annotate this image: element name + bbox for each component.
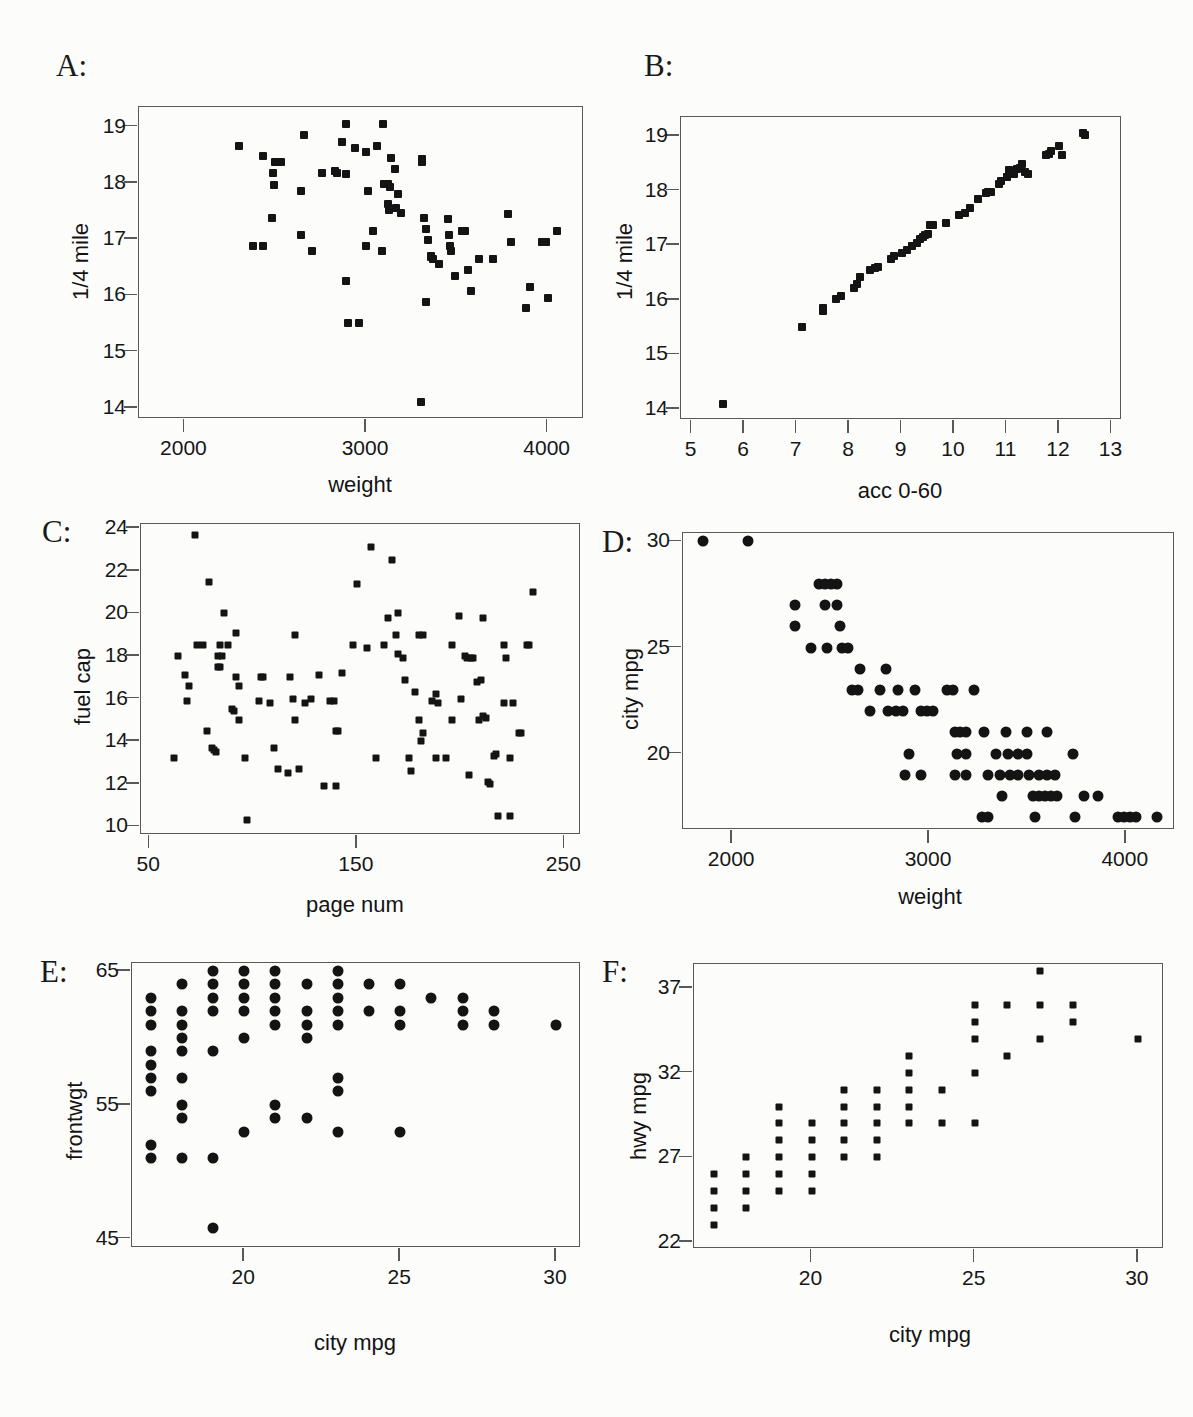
y-axis-tick-label: 15 — [66, 339, 126, 363]
data-point — [145, 1006, 156, 1017]
data-point — [1134, 1035, 1141, 1042]
data-point — [900, 769, 911, 780]
data-point — [461, 653, 468, 660]
data-point — [855, 663, 866, 674]
y-axis-tick-label: 14 — [66, 395, 126, 419]
data-point — [301, 1006, 312, 1017]
data-point — [494, 812, 501, 819]
x-axis-tick-label: 20 — [799, 1266, 822, 1290]
data-point — [239, 1006, 250, 1017]
data-point — [395, 1006, 406, 1017]
data-point — [1051, 791, 1062, 802]
data-point — [443, 755, 450, 762]
data-point — [451, 272, 459, 280]
data-point — [447, 247, 455, 255]
data-point — [509, 699, 516, 706]
data-point — [961, 748, 972, 759]
data-point — [270, 1006, 281, 1017]
data-point — [971, 1018, 978, 1025]
data-point — [363, 1006, 374, 1017]
data-point — [873, 1137, 880, 1144]
data-point — [530, 589, 537, 596]
x-axis-tick — [183, 419, 185, 432]
data-point — [1049, 769, 1060, 780]
data-point — [821, 642, 832, 653]
data-point — [873, 1154, 880, 1161]
data-point — [507, 755, 514, 762]
data-point — [318, 169, 326, 177]
data-point — [710, 1205, 717, 1212]
data-point — [208, 1006, 219, 1017]
data-point — [270, 744, 277, 751]
data-point — [364, 644, 371, 651]
data-point — [204, 727, 211, 734]
data-point — [351, 144, 359, 152]
data-point — [927, 706, 938, 717]
data-point — [457, 1019, 468, 1030]
data-point — [457, 992, 468, 1003]
data-point — [553, 227, 561, 235]
data-point — [455, 612, 462, 619]
panel-c-xlabel: page num — [306, 892, 404, 918]
data-point — [175, 653, 182, 660]
data-point — [270, 1099, 281, 1110]
data-point — [1036, 967, 1043, 974]
y-axis-tick-label: 65 — [59, 958, 119, 982]
data-point — [432, 691, 439, 698]
data-point — [208, 1046, 219, 1057]
data-point — [364, 187, 372, 195]
data-point — [906, 1103, 913, 1110]
data-point — [961, 727, 972, 738]
data-point — [526, 642, 533, 649]
y-axis-tick-label: 18 — [608, 178, 668, 202]
data-point — [260, 674, 267, 681]
data-point — [1067, 748, 1078, 759]
data-point — [551, 1019, 562, 1030]
x-axis-tick-label: 8 — [842, 437, 854, 461]
y-axis-tick-label: 10 — [68, 813, 128, 837]
data-point — [239, 979, 250, 990]
x-axis-tick — [742, 420, 744, 433]
data-point — [239, 1032, 250, 1043]
data-point — [316, 672, 323, 679]
data-point — [399, 655, 406, 662]
data-point — [422, 225, 430, 233]
data-point — [841, 1154, 848, 1161]
data-point — [372, 755, 379, 762]
data-point — [808, 1188, 815, 1195]
panel-a-points — [139, 107, 582, 417]
data-point — [411, 689, 418, 696]
data-point — [270, 1019, 281, 1030]
data-point — [504, 210, 512, 218]
data-point — [482, 714, 489, 721]
panel-b-plot-area — [680, 116, 1121, 419]
data-point — [287, 674, 294, 681]
data-point — [790, 621, 801, 632]
data-point — [507, 812, 514, 819]
y-axis-tick-label: 19 — [608, 123, 668, 147]
data-point — [916, 769, 927, 780]
data-point — [355, 319, 363, 327]
data-point — [874, 263, 882, 271]
y-axis-tick-label: 15 — [608, 341, 668, 365]
data-point — [710, 1171, 717, 1178]
data-point — [394, 190, 402, 198]
x-axis-tick — [730, 830, 732, 843]
data-point — [1069, 1018, 1076, 1025]
x-axis-tick-label: 5 — [685, 437, 697, 461]
data-point — [969, 684, 980, 695]
data-point — [216, 663, 223, 670]
data-point — [291, 716, 298, 723]
y-axis-tick-label: 25 — [610, 635, 670, 659]
data-point — [983, 812, 994, 823]
data-point — [218, 653, 225, 660]
data-point — [790, 600, 801, 611]
data-point — [235, 682, 242, 689]
data-point — [301, 1019, 312, 1030]
data-point — [332, 1086, 343, 1097]
data-point — [277, 158, 285, 166]
data-point — [208, 1222, 219, 1233]
data-point — [939, 1120, 946, 1127]
data-point — [269, 169, 277, 177]
data-point — [853, 684, 864, 695]
